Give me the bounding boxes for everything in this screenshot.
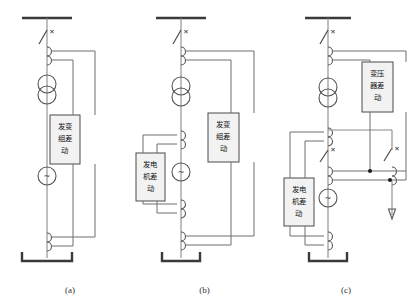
panel-b: ✕ ~ [132, 0, 277, 301]
xfmr-relay-label-line1: 变压 [370, 69, 385, 78]
gen-relay-label-line3: 动 [147, 184, 154, 193]
wire-gen-bottom-ct-inner [157, 201, 177, 213]
svg-text:✕: ✕ [183, 28, 188, 36]
gen-relay-label-line1: 发电 [292, 185, 307, 194]
gen-relay-label-line3: 动 [295, 209, 302, 218]
schematic-b: ✕ ~ [132, 0, 277, 285]
wire-hv-ct-inner [51, 60, 73, 115]
relay-label-line3: 动 [61, 146, 68, 155]
schematic-a: ✕ ~ [0, 0, 140, 285]
svg-text:✕: ✕ [394, 145, 399, 153]
current-transformer-branch-right [392, 167, 397, 185]
svg-text:✕: ✕ [49, 28, 54, 36]
svg-text:✕: ✕ [330, 28, 335, 36]
wire-neutral-ct-outer [290, 226, 324, 236]
wire-gen-top-ct-outer [290, 132, 324, 178]
xfmr-relay-label-line2: 器差 [370, 81, 385, 90]
current-transformer-gen-top [328, 128, 333, 146]
relay-label-line2: 组差 [58, 134, 73, 143]
figure-root: ✕ ~ [0, 0, 417, 301]
svg-text:~: ~ [325, 194, 332, 203]
wire-neutral-ct-inner [185, 162, 231, 245]
gen-relay-label-line1: 发电 [143, 160, 158, 169]
wire-neutral-ct-inner [51, 164, 73, 246]
junction-dot-upper [368, 169, 372, 173]
junction-dot-lower [388, 178, 392, 182]
wire-hv-ct-inner [185, 60, 231, 113]
panel-a: ✕ ~ [0, 0, 140, 301]
xfmr-relay-label-line3: 动 [374, 93, 381, 102]
relay-label-line1: 发变 [58, 122, 73, 131]
svg-text:✕: ✕ [330, 146, 335, 154]
current-transformer-neutral [328, 232, 333, 250]
unit-relay-label-line3: 动 [220, 144, 227, 153]
current-transformer-hv [47, 47, 52, 65]
current-transformer-hv [328, 47, 333, 65]
panel-c: ✕ ✕ [275, 0, 417, 301]
unit-relay-label-line2: 组差 [216, 132, 231, 141]
svg-text:~: ~ [178, 168, 185, 177]
current-transformer-gen-top [181, 131, 186, 149]
caption-a: (a) [0, 285, 140, 295]
gen-relay-label-line2: 机差 [292, 197, 307, 206]
current-transformer-hv [181, 47, 186, 65]
current-transformer-branch-left [328, 167, 333, 185]
schematic-c: ✕ ✕ [275, 0, 417, 285]
current-transformer-gen-bottom [181, 200, 186, 218]
caption-b: (b) [132, 285, 277, 295]
current-transformer-neutral [181, 232, 186, 250]
wire-gen-top-ct-inner [157, 144, 177, 153]
svg-text:~: ~ [44, 172, 51, 181]
caption-c: (c) [275, 285, 417, 295]
wire-neutral-ct-outer [185, 162, 254, 236]
current-transformer-neutral [47, 233, 52, 251]
gen-relay-label-line2: 机差 [143, 172, 158, 181]
unit-relay-label-line1: 发变 [216, 120, 231, 129]
